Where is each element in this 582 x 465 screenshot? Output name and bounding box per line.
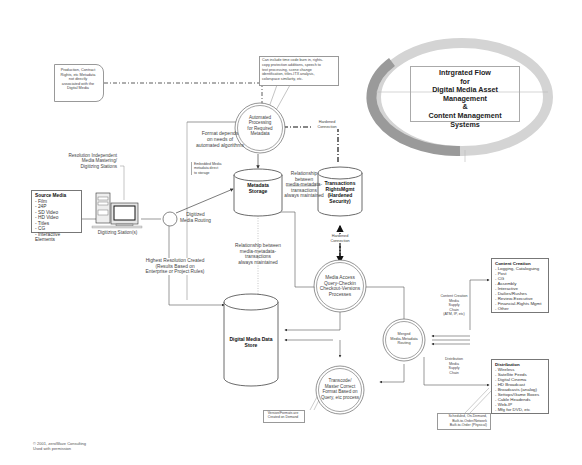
automated-callout-text: Can include time code burn in, rights- c… xyxy=(262,58,338,82)
merged-routing-label: Merged Media-Metadata Routing xyxy=(385,332,423,346)
media-access-label: Media Access Query-Checkin Checkout-Vers… xyxy=(315,275,365,297)
source-media-list: Source Media - Film - 24P - SD Video - H… xyxy=(31,190,82,233)
production-rights-text: Production, Contract Rights, etc Metadat… xyxy=(55,68,101,91)
diagram-canvas: Intrgrated Flow for Digital Media Asset … xyxy=(0,0,582,465)
digitized-routing-label: Digitized Media Routing xyxy=(173,212,218,223)
versions-text: Version/Formats are Created on Demand xyxy=(264,411,302,420)
distribution-supply-chain-text: Distribution Media Supply Chain xyxy=(440,357,468,375)
metadata-storage-label: Metadata Storage xyxy=(234,182,282,194)
title-line: Digital Media Asset Management xyxy=(411,86,519,103)
embedded-metadata-text: Embedded Media metadata direct to storag… xyxy=(191,162,238,175)
list-item: - Interactive Elements xyxy=(35,232,78,243)
transactions-label: Transactions RightsMgmt (Hardened Securi… xyxy=(316,180,364,204)
list-item: - Other xyxy=(495,306,545,311)
format-depends-text: Format depends on needs of automated alg… xyxy=(185,131,255,148)
hardened-connection-mid-label: Hardened Connection xyxy=(322,234,358,243)
digitizing-stations-label: Digitizing Station(s) xyxy=(90,230,145,235)
scheduled-text: Scheduled, On-Demand, Built-to-Order/Net… xyxy=(438,414,487,428)
transcoder-label: Transcode/ Master Correct Format Based o… xyxy=(314,378,366,400)
digital-media-store-label: Digital Media Data Store xyxy=(226,336,276,348)
highest-resolution-text: Highest Resolution Created (Results Base… xyxy=(140,258,210,275)
content-creation-list: Content Creation - Logging, Cataloguing … xyxy=(491,258,549,313)
relationship-text-2: Relationship between media-metadata- tra… xyxy=(218,243,298,265)
computer-icon xyxy=(92,193,142,228)
resolution-independent-text: Resolution Independent Media Mastering/ … xyxy=(22,153,117,169)
hardened-connection-top-label: Hardened Connection xyxy=(312,120,342,129)
distribution-list: Distribution - Wireless - Satellite Feed… xyxy=(491,359,549,414)
list-item: - Mfg for DVD, etc xyxy=(495,407,545,412)
copyright-text: © 2001, zeroWave Consulting Used with pe… xyxy=(33,441,113,451)
content-supply-chain-text: Content Creation Media Supply Chain (ATM… xyxy=(440,294,468,317)
diagram-title: Intrgrated Flow for Digital Media Asset … xyxy=(410,66,520,122)
title-line: Systems xyxy=(411,121,519,130)
